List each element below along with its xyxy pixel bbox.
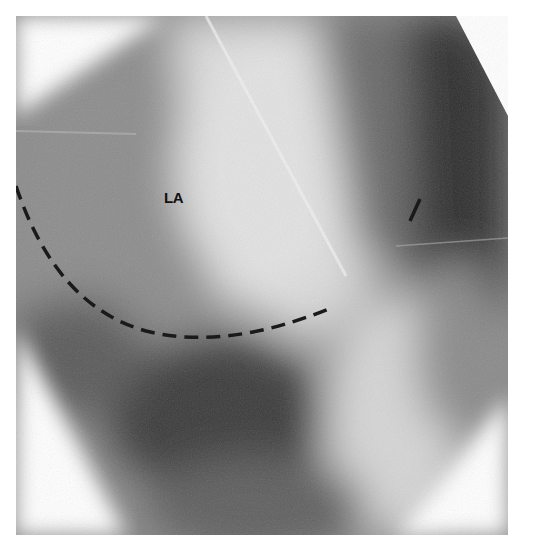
left-atrium-label: LA: [164, 189, 183, 206]
radiograph-texture: [16, 16, 508, 535]
radiograph-image: LA: [16, 16, 508, 535]
